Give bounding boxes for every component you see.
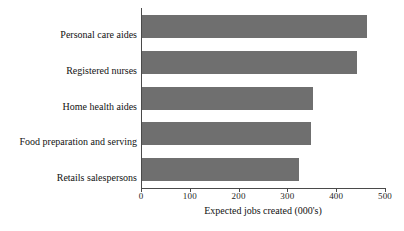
x-axis-line [141, 188, 385, 189]
plot-area [141, 8, 385, 188]
x-axis-tick-label-200: 200 [232, 191, 246, 201]
x-axis-title: Expected jobs created (000's) [141, 205, 385, 216]
y-axis-label-2: Home health aides [63, 101, 137, 112]
bar-registered-nurses [141, 51, 357, 74]
x-axis-tick-label-100: 100 [183, 191, 197, 201]
y-axis-label-1: Registered nurses [66, 65, 137, 76]
bar-personal-care-aides [141, 15, 367, 38]
bar-chart: Personal care aides Registered nurses Ho… [0, 0, 404, 231]
bar-retails-salespersons [141, 158, 299, 181]
y-axis-label-0: Personal care aides [60, 29, 137, 40]
y-axis-label-3: Food preparation and serving [20, 136, 137, 147]
x-axis-tick-label-500: 500 [378, 191, 392, 201]
bar-home-health-aides [141, 87, 313, 110]
x-axis-tick-label-400: 400 [329, 191, 343, 201]
x-axis-tick-label-0: 0 [139, 191, 144, 201]
y-axis-line [141, 8, 142, 188]
x-axis-tick-label-300: 300 [280, 191, 294, 201]
bar-food-preparation-and-serving [141, 122, 311, 145]
y-axis-category-labels: Personal care aides Registered nurses Ho… [0, 8, 137, 188]
y-axis-label-4: Retails salespersons [57, 172, 137, 183]
